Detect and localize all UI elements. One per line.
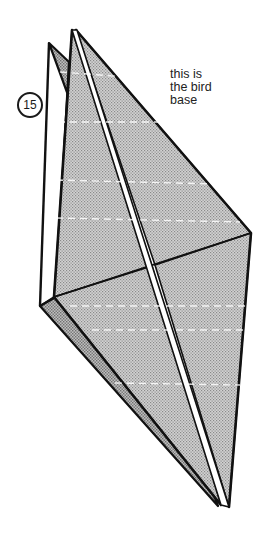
step-number-badge: 15: [17, 92, 43, 118]
caption: this is the bird base: [170, 68, 212, 107]
bird-base-diagram: [0, 0, 269, 540]
step-number: 15: [23, 98, 36, 112]
caption-line-3: base: [170, 94, 212, 107]
